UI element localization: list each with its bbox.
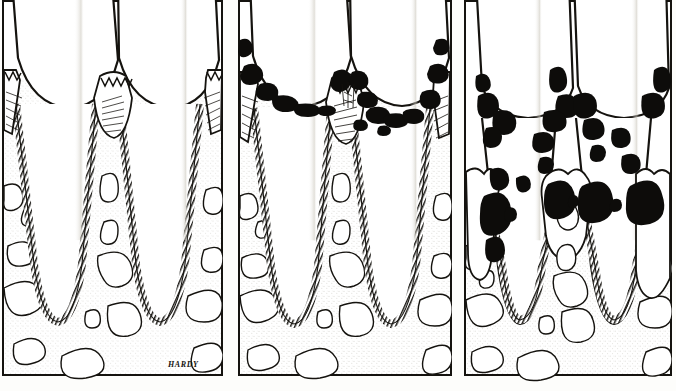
- panel-healthy-periodontium: HARDY: [2, 0, 223, 391]
- panel-3-drawing: [464, 0, 672, 391]
- figure-canvas: HARDY: [0, 0, 676, 391]
- panel-2-drawing: [238, 0, 452, 391]
- artist-signature: HARDY: [168, 360, 199, 369]
- panel-advanced-periodontitis: [464, 0, 672, 391]
- panel-1-drawing: [2, 0, 223, 391]
- panel-gingivitis-early-periodontitis: [238, 0, 452, 391]
